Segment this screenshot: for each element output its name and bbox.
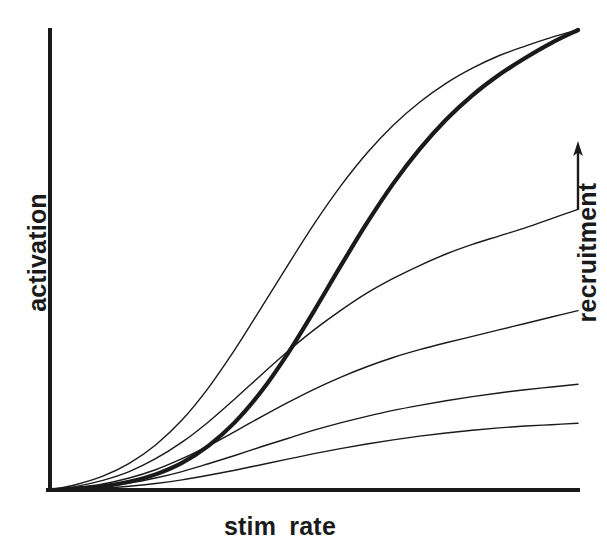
right-axis-label: recruitment <box>573 168 602 338</box>
y-axis-label: activation <box>23 168 52 338</box>
curve-curve-5 <box>50 384 578 490</box>
curve-curve-3 <box>50 209 578 490</box>
curve-curve-2-aggregate-bold <box>50 30 578 490</box>
x-axis-label: stim rate <box>180 512 380 541</box>
figure-activation-vs-stim-rate: activation stim rate recruitment <box>0 0 607 552</box>
curve-curve-1-steepest <box>50 30 578 490</box>
plot-area <box>0 0 607 552</box>
curves-group <box>50 30 578 490</box>
